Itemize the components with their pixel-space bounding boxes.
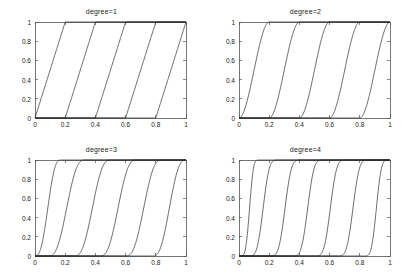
- data-curve: [239, 160, 390, 256]
- x-axis-tick-label: 0.6: [121, 121, 130, 128]
- y-axis-tick-label: 0.8: [9, 176, 31, 183]
- y-axis-tick-label: 0.8: [213, 38, 235, 45]
- x-axis-tick-label: 0: [33, 121, 37, 128]
- data-curve: [239, 160, 390, 256]
- x-axis-tick-label: 0: [237, 259, 241, 266]
- x-axis-tick-label: 0.8: [355, 121, 364, 128]
- y-axis-tick-label: 0.8: [9, 38, 31, 45]
- data-curve: [239, 160, 390, 256]
- y-axis-tick-label: 0.8: [213, 176, 235, 183]
- x-axis-tick-label: 0.2: [61, 259, 70, 266]
- y-axis-tick-label: 0.2: [9, 233, 31, 240]
- plot-svg: [239, 22, 390, 118]
- data-curve: [239, 160, 390, 256]
- y-axis-tick-label: 1: [9, 19, 31, 26]
- x-axis-tick-label: 0.4: [295, 121, 304, 128]
- y-axis-tick-label: 0.6: [213, 195, 235, 202]
- x-axis-tick-label: 0.4: [295, 259, 304, 266]
- x-axis-tick-label: 1: [184, 259, 188, 266]
- x-axis-tick-label: 0.8: [355, 259, 364, 266]
- x-axis-tick-label: 0.8: [151, 259, 160, 266]
- subplot-degree-2: degree=2 00.20.40.60.8100.20.40.60.81: [204, 0, 407, 137]
- panel-title: degree=4: [204, 146, 407, 153]
- y-axis-tick-label: 0.6: [9, 195, 31, 202]
- y-axis-tick-label: 0.2: [213, 95, 235, 102]
- data-curve: [35, 22, 186, 118]
- x-axis-tick-label: 1: [184, 121, 188, 128]
- data-curve: [239, 160, 390, 256]
- y-axis-tick-label: 0.6: [9, 57, 31, 64]
- x-axis-tick-label: 0: [33, 259, 37, 266]
- x-axis-tick-label: 0.6: [325, 259, 334, 266]
- panel-title: degree=1: [0, 8, 203, 15]
- panel-title: degree=2: [204, 8, 407, 15]
- y-axis-tick-label: 0.4: [213, 214, 235, 221]
- subplot-degree-1: degree=1 00.20.40.60.8100.20.40.60.81: [0, 0, 203, 137]
- figure-canvas: degree=1 00.20.40.60.8100.20.40.60.81 de…: [0, 0, 407, 275]
- y-axis-tick-label: 0.4: [9, 214, 31, 221]
- y-axis-tick-label: 1: [213, 157, 235, 164]
- plot-svg: [239, 160, 390, 256]
- panel-title: degree=3: [0, 146, 203, 153]
- y-axis-tick-label: 0.4: [9, 76, 31, 83]
- y-axis-tick-label: 0.4: [213, 76, 235, 83]
- subplot-degree-4: degree=4 00.20.40.60.8100.20.40.60.81: [204, 138, 407, 275]
- x-axis-tick-label: 1: [388, 259, 392, 266]
- plot-area: [239, 22, 390, 118]
- x-axis-tick-label: 0.6: [121, 259, 130, 266]
- y-axis-tick-label: 1: [213, 19, 235, 26]
- x-axis-tick-label: 1: [388, 121, 392, 128]
- data-curve: [239, 160, 390, 256]
- plot-area: [35, 160, 186, 256]
- x-axis-tick-label: 0.8: [151, 121, 160, 128]
- y-axis-tick-label: 0.6: [213, 57, 235, 64]
- plot-svg: [35, 160, 186, 256]
- plot-svg: [35, 22, 186, 118]
- x-axis-tick-label: 0.4: [91, 259, 100, 266]
- y-axis-tick-label: 1: [9, 157, 31, 164]
- y-axis-tick-label: 0.2: [213, 233, 235, 240]
- data-curve: [35, 160, 186, 256]
- x-axis-tick-label: 0.4: [91, 121, 100, 128]
- y-axis-tick-label: 0.2: [9, 95, 31, 102]
- x-axis-tick-label: 0.2: [61, 121, 70, 128]
- y-axis-tick-label: 0: [9, 253, 31, 260]
- x-axis-tick-label: 0.6: [325, 121, 334, 128]
- y-axis-tick-label: 0: [213, 253, 235, 260]
- axes-frame: [239, 160, 390, 256]
- data-curve: [239, 160, 390, 256]
- plot-area: [35, 22, 186, 118]
- x-axis-tick-label: 0.2: [265, 259, 274, 266]
- y-axis-tick-label: 0: [9, 115, 31, 122]
- x-axis-tick-label: 0: [237, 121, 241, 128]
- subplot-degree-3: degree=3 00.20.40.60.8100.20.40.60.81: [0, 138, 203, 275]
- y-axis-tick-label: 0: [213, 115, 235, 122]
- plot-area: [239, 160, 390, 256]
- x-axis-tick-label: 0.2: [265, 121, 274, 128]
